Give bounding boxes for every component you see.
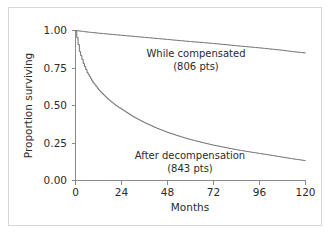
x-tick-label-2: 48 <box>161 186 174 198</box>
x-tick-marks <box>76 181 306 185</box>
y-tick-label-3: 0.75 <box>44 62 67 74</box>
y-tick-label-0: 0.00 <box>44 174 67 186</box>
x-axis-title: Months <box>171 201 209 213</box>
annotation-compensated-label: While compensated <box>146 48 245 59</box>
survival-chart: 0.00 0.25 0.50 0.75 1.00 0 24 48 72 96 1… <box>0 0 331 234</box>
x-tick-label-5: 120 <box>295 186 315 198</box>
y-tick-label-4: 1.00 <box>44 24 67 36</box>
x-tick-label-1: 24 <box>115 186 129 198</box>
annotation-decompensated-label: After decompensation <box>135 150 245 161</box>
y-tick-marks <box>72 31 76 181</box>
y-tick-label-1: 0.25 <box>44 137 67 149</box>
y-axis-title: Proportion surviving <box>22 53 34 159</box>
annotation-decompensated-count: (843 pts) <box>167 163 213 174</box>
y-tick-label-2: 0.50 <box>44 99 67 111</box>
annotation-compensated-count: (806 pts) <box>173 61 219 72</box>
x-tick-label-3: 72 <box>207 186 220 198</box>
figure-container: 0.00 0.25 0.50 0.75 1.00 0 24 48 72 96 1… <box>0 0 331 234</box>
x-tick-label-4: 96 <box>253 186 267 198</box>
x-tick-label-0: 0 <box>72 186 79 198</box>
